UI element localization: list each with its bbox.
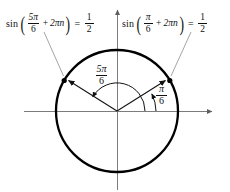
- fraction-denominator: 6: [145, 24, 152, 34]
- periodic-term-right: 2πn: [163, 19, 177, 29]
- periodic-term-left: 2πn: [50, 19, 64, 29]
- angle-label-numerator: 5π: [96, 64, 106, 75]
- equation-left: sin ( 5π 6 + 2πn ) = 1 2: [6, 13, 95, 34]
- fraction-denominator: 2: [199, 24, 206, 34]
- angle-label-pi-over-6: π 6: [156, 84, 167, 106]
- equation-right: sin ( π 6 + 2πn ) = 1 2: [122, 13, 209, 34]
- fraction-pi-over-6-right: π 6: [144, 13, 153, 34]
- plus-sign-right: +: [156, 19, 161, 29]
- leader-line-left: [44, 32, 64, 76]
- leader-line-right: [171, 32, 191, 76]
- fraction-denominator: 2: [86, 24, 93, 34]
- equals-sign-left: =: [75, 19, 81, 29]
- arc-5pi-over-6: [93, 83, 145, 111]
- plus-sign-left: +: [43, 19, 48, 29]
- angle-label-denominator: 6: [159, 96, 164, 107]
- fraction-5pi-over-6-left: 5π 6: [28, 13, 40, 34]
- figure-canvas: sin ( 5π 6 + 2πn ) = 1 2 sin ( π 6 + 2πn…: [0, 0, 230, 192]
- fraction-one-half-right: 1 2: [198, 13, 207, 34]
- angle-label-denominator: 6: [99, 76, 104, 87]
- fraction-one-half-left: 1 2: [85, 13, 94, 34]
- fraction-denominator: 6: [30, 24, 37, 34]
- angle-label-numerator: π: [159, 84, 164, 95]
- sin-function-name-right: sin: [122, 19, 134, 29]
- fraction-numerator: 1: [86, 13, 93, 23]
- radius-150-arrow: [69, 81, 118, 112]
- fraction-numerator: 5π: [28, 13, 40, 23]
- fraction-numerator: π: [145, 13, 152, 23]
- sin-function-name-left: sin: [6, 19, 18, 29]
- equals-sign-right: =: [188, 19, 194, 29]
- fraction-numerator: 1: [199, 13, 206, 23]
- angle-label-5pi-over-6: 5π 6: [96, 64, 107, 86]
- radius-150-endpoint-dot: [62, 78, 67, 83]
- radius-30-endpoint-dot: [167, 78, 172, 83]
